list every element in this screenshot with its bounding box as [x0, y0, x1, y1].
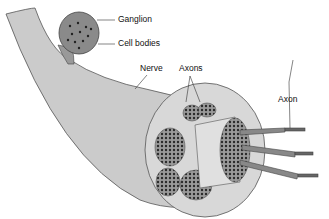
- label-axon: Axon: [278, 95, 297, 104]
- label-ganglion: Ganglion: [118, 15, 152, 24]
- label-axons: Axons: [179, 64, 203, 73]
- ganglion-group: [58, 12, 99, 64]
- nerve-diagram: Ganglion Cell bodies Nerve Axons Axon: [0, 0, 329, 219]
- nerve-illustration: [0, 0, 329, 219]
- label-cell-bodies: Cell bodies: [118, 39, 160, 48]
- label-nerve: Nerve: [140, 64, 163, 73]
